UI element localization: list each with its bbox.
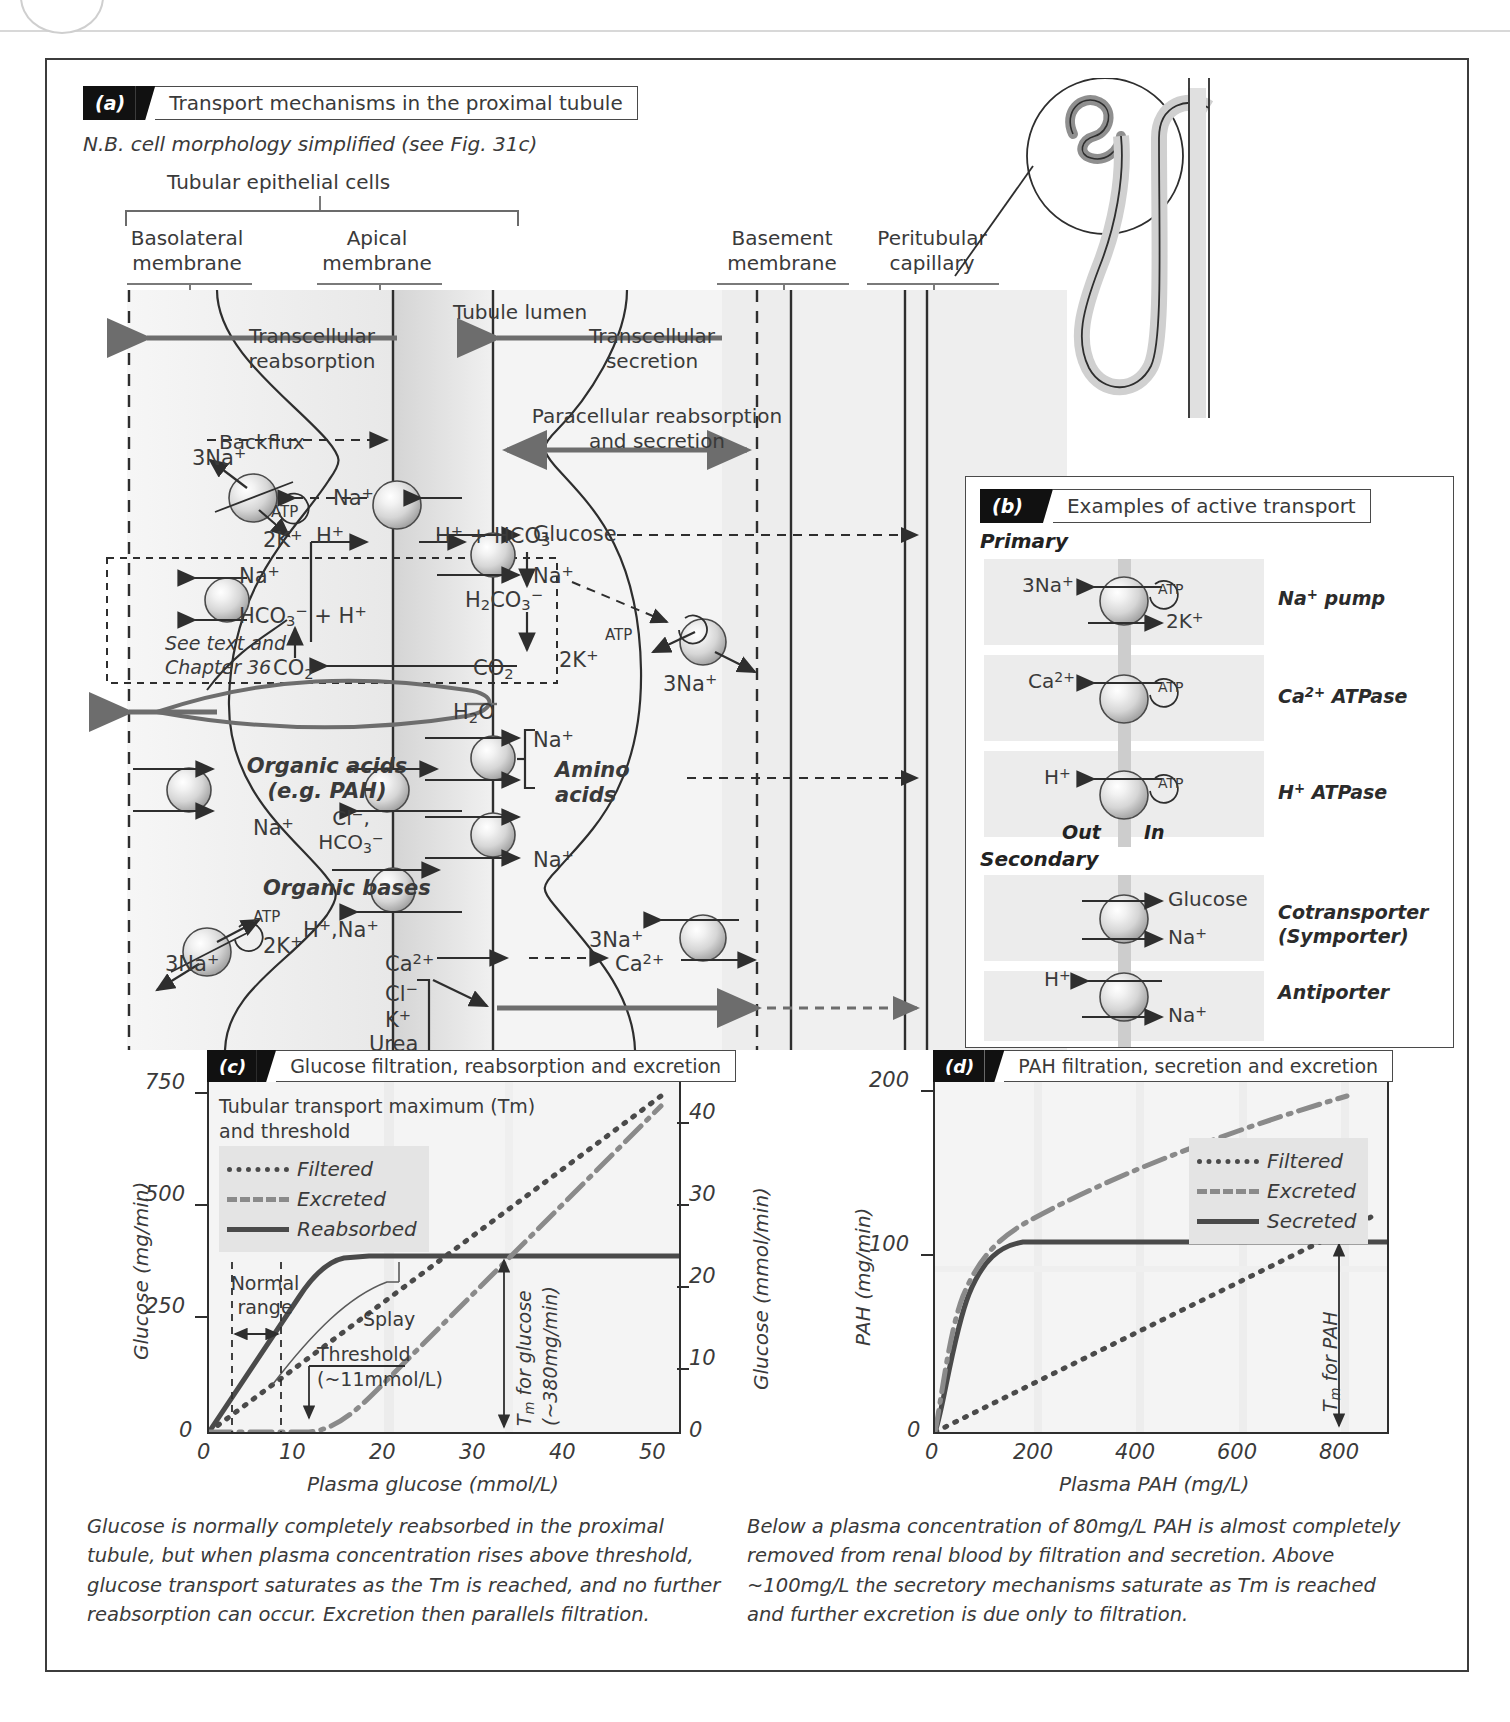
- see-text-note: See text and Chapter 36: [165, 632, 286, 680]
- panel-a-note: N.B. cell morphology simplified (see Fig…: [83, 132, 537, 156]
- organic-acids-label: Organic acids (e.g. PAH): [227, 754, 427, 804]
- d-ytick-0: 0: [907, 1418, 920, 1442]
- d-xtick-600: 600: [1217, 1440, 1257, 1464]
- panel-d-tag: (d): [933, 1050, 984, 1082]
- panel-a-header: (a) Transport mechanisms in the proximal…: [83, 86, 638, 120]
- organic-bases-label: Organic bases: [263, 876, 431, 900]
- c-yaxis-label: Glucose (mg/min): [129, 1182, 153, 1360]
- d-legend-item-secreted: Secreted: [1197, 1206, 1356, 1236]
- c-yaxis-right-label: Glucose (mmol/min): [749, 1187, 773, 1390]
- c-right-tick-30: [677, 1204, 689, 1206]
- ca-exchanger-3na-label: 3Na+: [589, 926, 643, 952]
- bottom-atp-label: ATP: [253, 908, 280, 926]
- apical-membrane-label: Apical membrane: [307, 226, 447, 276]
- legend-item-reabsorbed: Reabsorbed: [227, 1214, 417, 1244]
- legend-label-reabsorbed: Reabsorbed: [297, 1217, 417, 1241]
- d-xtick-800: 800: [1319, 1440, 1359, 1464]
- figure-frame: (a) Transport mechanisms in the proximal…: [45, 58, 1469, 1672]
- b-atp-2-label: ATP: [1158, 679, 1183, 695]
- d-tickmark-100: [921, 1254, 933, 1256]
- c-xtick-0: 0: [197, 1440, 210, 1464]
- threshold-annotation: Threshold (~11mmol/L): [317, 1342, 443, 1391]
- basolateral-membrane-label: Basolateral membrane: [117, 226, 257, 276]
- b-na-pump-2k-label: 2K+: [1166, 609, 1204, 633]
- d-legend-item-excreted: Excreted: [1197, 1176, 1356, 1206]
- panel-c: (c) Glucose filtration, reabsorption and…: [157, 1060, 737, 1480]
- panel-a-tag: (a): [83, 86, 135, 120]
- b-cotransport-glucose-label: Glucose: [1168, 887, 1248, 911]
- transcellular-secretion-label: Transcellular secretion: [537, 324, 767, 374]
- d-ytick-200: 200: [869, 1068, 909, 1092]
- cl-hco3-label: Cl−,HCO3−: [303, 806, 399, 857]
- d-legend-key-secreted: [1197, 1219, 1259, 1224]
- d-xtick-200: 200: [1013, 1440, 1053, 1464]
- left-na-pump-2k-label: 2K+: [263, 526, 302, 552]
- k-label: K+: [385, 1006, 411, 1032]
- panel-d-legend: Filtered Excreted Secreted: [1189, 1138, 1368, 1244]
- c-tickmark-500: [195, 1204, 207, 1206]
- c-xtick-50: 50: [639, 1440, 666, 1464]
- b-out-label: Out: [1062, 821, 1101, 843]
- d-legend-label-filtered: Filtered: [1267, 1149, 1343, 1173]
- organic-acid-na-label: Na+: [253, 814, 294, 840]
- b-row4-name: Cotransporter(Symporter): [1278, 901, 1428, 949]
- b-h-label: H+: [1044, 765, 1071, 789]
- transcellular-reabsorption-label: Transcellular reabsorption: [197, 324, 427, 374]
- paracellular-label: Paracellular reabsorption and secretion: [507, 404, 807, 454]
- figure-page: (a) Transport mechanisms in the proximal…: [0, 0, 1510, 1722]
- d-legend-item-filtered: Filtered: [1197, 1146, 1356, 1176]
- group-bracket: [125, 210, 519, 226]
- amino-na-bottom-label: Na+: [533, 846, 574, 872]
- bottom-na-pump-3na-label: 3Na+: [165, 950, 219, 976]
- left-na-pump-3na-label: 3Na+: [192, 444, 246, 470]
- amino-acids-label: Amino acids: [555, 758, 630, 808]
- normal-range-annotation: Normal range: [209, 1272, 321, 1320]
- corner-circle-decoration: [20, 0, 104, 34]
- panel-c-tag: (c): [207, 1050, 256, 1082]
- h2co3-label: H2CO3−: [465, 586, 543, 613]
- legend-item-filtered: Filtered: [227, 1154, 417, 1184]
- c-right-ytick-30: 30: [689, 1182, 716, 1206]
- c-xtick-40: 40: [549, 1440, 576, 1464]
- c-right-tick-20: [677, 1286, 689, 1288]
- cl-label: Cl−: [385, 980, 418, 1006]
- right-pump-3na-label: 3Na+: [663, 670, 717, 696]
- panel-a-tag-slant: [135, 86, 155, 120]
- d-legend-key-excreted: [1197, 1189, 1259, 1194]
- d-ytick-100: 100: [869, 1232, 909, 1256]
- panel-b-transport-diagrams: [966, 477, 1453, 1047]
- d-legend-label-excreted: Excreted: [1267, 1179, 1356, 1203]
- cytosol-h-label: H+: [316, 522, 344, 548]
- panel-b-secondary-heading: Secondary: [980, 847, 1099, 871]
- b-row5-name: Antiporter: [1278, 981, 1389, 1003]
- b-in-label: In: [1144, 821, 1165, 843]
- lumen-co2-label: CO2: [473, 656, 514, 682]
- tm-glucose-annotation: Tm for glucose: [513, 1290, 537, 1426]
- group-stem: [319, 196, 321, 210]
- c-right-ytick-20: 20: [689, 1264, 716, 1288]
- c-right-tick-10: [677, 1368, 689, 1370]
- b-antiport-na-label: Na+: [1168, 1003, 1207, 1027]
- panel-c-title: Glucose filtration, reabsorption and exc…: [276, 1050, 736, 1082]
- b-row2-name: Ca2+ ATPase: [1278, 685, 1407, 707]
- panel-c-subtitle: Tubular transport maximum (Tm)and thresh…: [219, 1094, 535, 1143]
- d-xtick-400: 400: [1115, 1440, 1155, 1464]
- h-na-label: H+,Na+: [303, 916, 379, 942]
- c-xtick-30: 30: [459, 1440, 486, 1464]
- bottom-na-pump-2k-label: 2K+: [263, 932, 302, 958]
- d-legend-key-filtered: [1197, 1159, 1259, 1164]
- b-cotransport-na-label: Na+: [1168, 925, 1207, 949]
- panel-d-header: (d) PAH filtration, secretion and excret…: [933, 1050, 1393, 1082]
- b-na-pump-3na-label: 3Na+: [1022, 573, 1074, 597]
- c-ytick-0: 0: [179, 1418, 192, 1442]
- panel-c-header: (c) Glucose filtration, reabsorption and…: [207, 1050, 736, 1082]
- d-legend-label-secreted: Secreted: [1267, 1209, 1356, 1233]
- top-divider: [0, 30, 1510, 32]
- c-ytick-750: 750: [145, 1070, 185, 1094]
- basolateral-hco3-h-label: HCO3− + H+: [239, 602, 367, 629]
- d-tickmark-200: [921, 1090, 933, 1092]
- basement-membrane-label: Basement membrane: [707, 226, 857, 276]
- right-atp-label: ATP: [605, 626, 632, 644]
- panel-c-tag-slant: [256, 1050, 276, 1082]
- amino-na-top-label: Na+: [533, 726, 574, 752]
